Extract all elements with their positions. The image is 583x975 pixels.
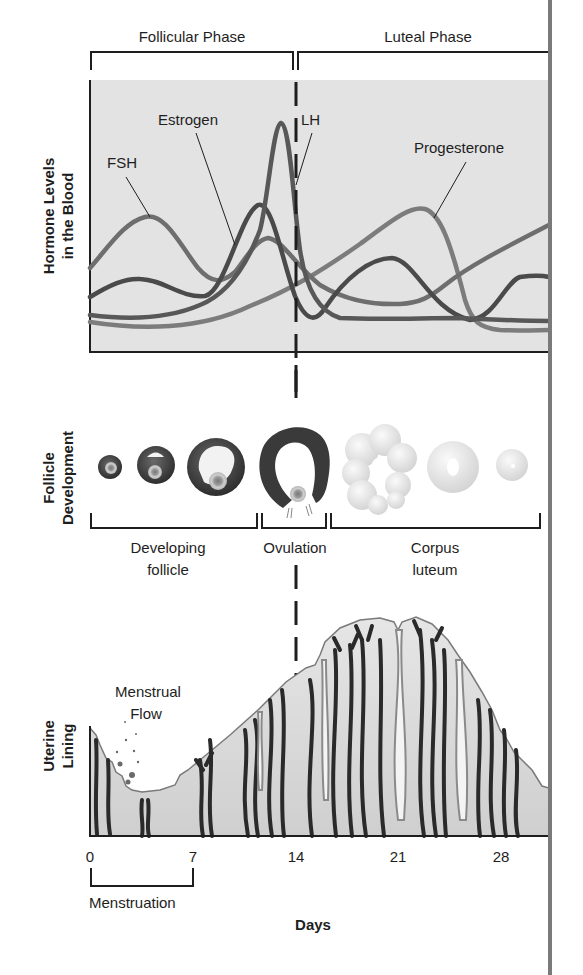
menstrual-flow-label-line2: Flow: [130, 705, 162, 722]
follicle-ylabel-line2: Development: [59, 431, 76, 525]
uterine-ylabel-line2: Lining: [59, 724, 76, 769]
corpus-luteum-large-icon: [342, 424, 417, 515]
follicle-stage-2-icon: [137, 446, 175, 484]
x-tick-14: 14: [288, 848, 305, 865]
follicle-stage-1-icon: [98, 455, 122, 479]
follicle-axis-title: Follicle Development: [40, 431, 76, 525]
follicle-ylabel-line1: Follicle: [40, 452, 57, 504]
menstruation-bracket: [91, 868, 193, 886]
x-tick-7: 7: [189, 848, 197, 865]
menstrual-flow-label-line1: Menstrual: [115, 683, 181, 700]
page-edge-divider: [548, 0, 552, 975]
estrogen-label: Estrogen: [158, 111, 218, 128]
x-tick-0: 0: [86, 848, 94, 865]
hormone-ylabel-line1: Hormone Levels: [40, 158, 57, 275]
follicle-stage-3-icon: [187, 438, 245, 496]
corpus-luteum-label-line1: Corpus: [411, 539, 459, 556]
progesterone-label: Progesterone: [414, 139, 504, 156]
x-tick-21: 21: [390, 848, 407, 865]
follicle-development-panel: Follicle Development: [40, 424, 540, 578]
follicular-phase-bracket: [91, 52, 293, 70]
menstrual-cycle-diagram: Follicular Phase Luteal Phase Hormone Le…: [0, 0, 583, 975]
luteal-phase-bracket: [298, 52, 550, 70]
follicular-phase-label: Follicular Phase: [139, 28, 246, 45]
developing-follicle-bracket: [91, 513, 257, 528]
uterine-ylabel-line1: Uterine: [40, 720, 57, 772]
menstruation-label: Menstruation: [89, 894, 176, 911]
ovulating-follicle-icon: [259, 427, 329, 518]
phase-header: Follicular Phase Luteal Phase: [91, 28, 550, 70]
developing-follicle-label-line1: Developing: [130, 539, 205, 556]
x-tick-28: 28: [493, 848, 510, 865]
ovulation-bracket: [262, 513, 326, 528]
uterine-axis-title: Uterine Lining: [40, 720, 76, 772]
lh-label: LH: [301, 111, 320, 128]
x-axis-title: Days: [295, 916, 331, 933]
x-axis: 0 7 14 21 28 Menstruation Days: [86, 848, 510, 933]
luteal-phase-label: Luteal Phase: [384, 28, 472, 45]
fsh-label: FSH: [107, 154, 137, 171]
ovulation-label: Ovulation: [263, 539, 326, 556]
hormone-ylabel-line2: in the Blood: [59, 173, 76, 260]
corpus-luteum-bracket: [331, 513, 540, 528]
developing-follicle-label-line2: follicle: [147, 561, 189, 578]
corpus-luteum-label-line2: luteum: [412, 561, 457, 578]
corpus-luteum-medium-icon: [427, 441, 479, 493]
corpus-luteum-small-icon: [496, 449, 528, 481]
hormone-axis-title: Hormone Levels in the Blood: [40, 158, 76, 275]
